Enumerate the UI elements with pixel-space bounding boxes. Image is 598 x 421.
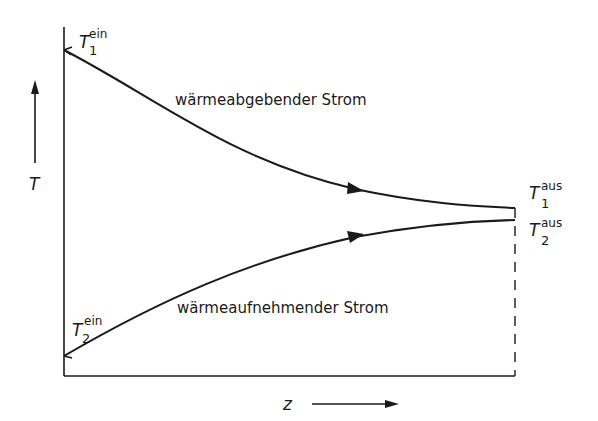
t2-inlet-symbol: T (72, 322, 82, 339)
hot-stream-flow-arrow-icon (347, 182, 364, 194)
hot-stream-label: wärmeabgebender Strom (175, 93, 367, 108)
t1-inlet-superscript: ein (89, 28, 107, 40)
y-axis-label: T (29, 176, 39, 193)
t1-outlet-subscript: 1 (541, 197, 549, 210)
t2-outlet-subscript: 2 (541, 234, 549, 247)
t1-inlet-symbol: T (79, 34, 89, 51)
t1-outlet-symbol: T (529, 185, 539, 202)
t2-inlet-superscript: ein (84, 315, 102, 327)
x-axis-label: z (283, 396, 292, 413)
z-arrow-head-icon (385, 400, 399, 408)
t-arrow-head-icon (31, 80, 39, 94)
t1-outlet-superscript: aus (541, 180, 562, 192)
hot-stream-curve (64, 50, 515, 208)
t1-inlet-subscript: 1 (89, 44, 97, 57)
t2-outlet-symbol: T (529, 222, 539, 239)
cold-stream-curve (64, 220, 515, 356)
cold-stream-flow-arrow-icon (347, 231, 364, 243)
diagram-canvas (0, 0, 598, 421)
t2-outlet-superscript: aus (541, 217, 562, 229)
cold-stream-label: wärmeaufnehmender Strom (177, 301, 389, 316)
t2-inlet-subscript: 2 (82, 332, 90, 345)
